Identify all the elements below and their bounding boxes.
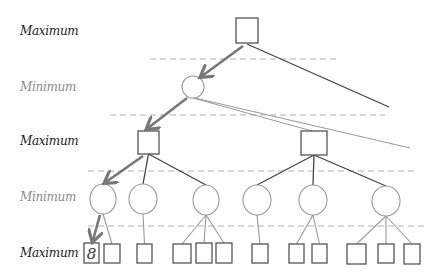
- best-path-arrow: [106, 156, 143, 182]
- leaf-node: [312, 244, 327, 263]
- best-path-arrow: [202, 46, 243, 76]
- min-node: [243, 185, 271, 215]
- leaf-node: [347, 244, 366, 264]
- minimax-tree-diagram: 8: [0, 0, 439, 280]
- tree-edge: [206, 215, 224, 243]
- tree-edge: [143, 214, 145, 244]
- min-node: [182, 76, 204, 98]
- min-node: [372, 186, 400, 216]
- best-path-arrow: [148, 98, 187, 128]
- tree-edge: [247, 44, 389, 107]
- leaf-node: [173, 244, 191, 263]
- best-path-arrow: [93, 215, 100, 240]
- min-node: [299, 185, 327, 215]
- max-node: [301, 131, 327, 155]
- min-node: [193, 185, 219, 215]
- leaf-node: [196, 243, 212, 263]
- leaf-node: [216, 243, 232, 263]
- best-move-path: [93, 46, 243, 240]
- max-node-root: [236, 18, 258, 43]
- leaf-node: [378, 244, 394, 263]
- tree-edge: [386, 216, 412, 244]
- tree-edge: [313, 155, 314, 185]
- leaf-node: [289, 244, 304, 263]
- min-node: [90, 184, 116, 214]
- leaf-value: 8: [87, 245, 97, 263]
- tree-nodes: 8: [84, 18, 420, 264]
- tree-edge: [257, 215, 260, 244]
- min-node: [129, 184, 157, 214]
- max-node: [138, 131, 159, 154]
- tree-edge: [257, 155, 314, 185]
- tree-edge: [103, 214, 112, 244]
- leaf-node: [137, 244, 152, 263]
- tree-edge: [143, 154, 149, 184]
- tree-edge: [297, 215, 314, 244]
- leaf-node: [252, 244, 268, 263]
- tree-edge: [313, 215, 320, 244]
- tree-edge: [204, 215, 206, 243]
- tree-edge: [182, 215, 206, 244]
- leaf-node: [104, 244, 120, 263]
- tree-edge: [149, 154, 207, 185]
- leaf-node: [404, 244, 420, 264]
- tree-edge: [314, 155, 386, 186]
- tree-edge: [357, 216, 387, 244]
